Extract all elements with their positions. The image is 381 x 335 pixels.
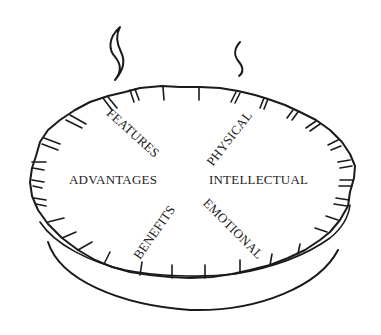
segment-label-intellectual: INTELLECTUAL [209,173,308,186]
pie-crust-inner [40,205,350,276]
steam-icon [110,27,242,80]
segment-label-advantages: ADVANTAGES [69,173,157,186]
pie-diagram: FEATURES PHYSICAL ADVANTAGES INTELLECTUA… [0,0,381,335]
pie-illustration [0,0,381,335]
